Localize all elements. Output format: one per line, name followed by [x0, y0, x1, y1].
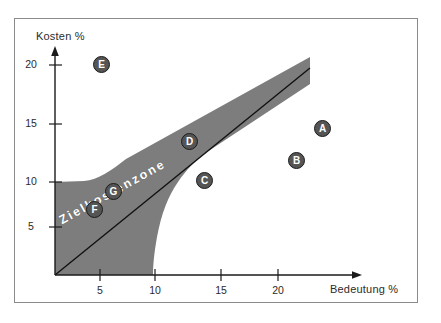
zielkostenlinie: [55, 68, 310, 275]
y-tick-label-10: 10: [20, 175, 42, 187]
x-axis-title: Bedeutung %: [330, 283, 398, 295]
data-point-marker-f[interactable]: F: [86, 201, 103, 218]
x-tick-label-15: 15: [210, 284, 232, 296]
chart-page: Kosten % Bedeutung % 20 15 10 5 5 10 15 …: [0, 0, 441, 323]
x-tick-label-10: 10: [144, 284, 166, 296]
x-tick-label-20: 20: [267, 284, 289, 296]
chart-plot-area: [0, 0, 441, 323]
y-tick-label-5: 5: [20, 220, 42, 232]
x-tick-label-5: 5: [89, 284, 111, 296]
data-point-marker-c[interactable]: C: [196, 172, 213, 189]
y-tick-label-20: 20: [20, 58, 42, 70]
data-point-marker-d[interactable]: D: [181, 133, 198, 150]
data-point-marker-e[interactable]: E: [93, 56, 110, 73]
y-axis-title: Kosten %: [36, 30, 85, 42]
data-point-marker-b[interactable]: B: [288, 152, 305, 169]
zielkostenzone-shaded-region: [55, 57, 310, 275]
data-point-marker-g[interactable]: G: [105, 183, 122, 200]
y-tick-label-15: 15: [20, 117, 42, 129]
data-point-marker-a[interactable]: A: [314, 120, 331, 137]
